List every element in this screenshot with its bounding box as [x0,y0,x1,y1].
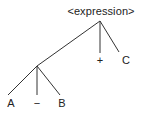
edge-sub-b [37,66,60,95]
node-label-plus: + [97,55,103,66]
edge-sub-a [8,66,37,95]
edge-root-sub [37,21,100,66]
parse-tree-edges [0,0,142,117]
root-label-expression: <expression> [67,6,134,17]
node-label-b: B [58,98,65,109]
node-label-minus: − [34,98,40,109]
node-label-a: A [7,98,14,109]
edge-root-c [100,21,119,52]
node-label-c: C [122,55,130,66]
